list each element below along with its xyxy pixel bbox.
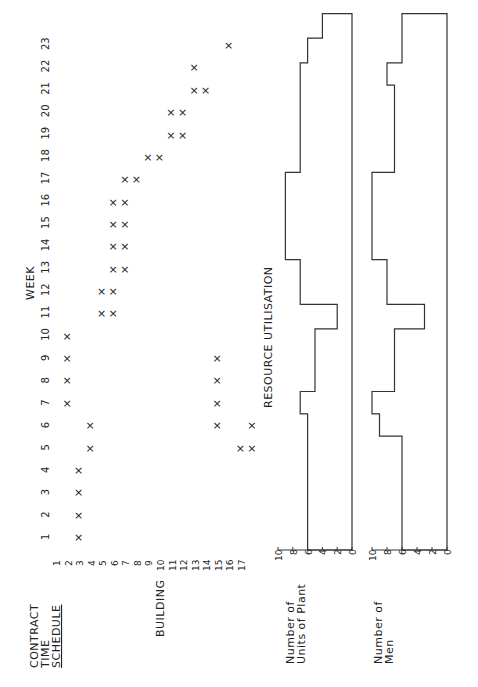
schedule-x-mark: × xyxy=(224,39,233,52)
building-tick-label: 1 xyxy=(52,560,62,566)
building-tick-label: 15 xyxy=(214,560,224,571)
week-tick-label: 9 xyxy=(40,355,51,361)
schedule-x-mark: × xyxy=(74,509,83,522)
schedule-x-mark: × xyxy=(62,352,71,365)
building-tick-label: 10 xyxy=(156,559,166,571)
schedule-x-mark: × xyxy=(109,196,118,209)
building-tick-label: 2 xyxy=(64,560,74,566)
schedule-x-mark: × xyxy=(120,173,129,186)
week-tick-label: 11 xyxy=(40,306,51,319)
schedule-x-mark: × xyxy=(166,129,175,142)
axis-tick-label: 8 xyxy=(383,549,393,555)
building-tick-label: 3 xyxy=(75,560,85,566)
axis-tick-label: 10 xyxy=(274,549,284,561)
schedule-x-mark: × xyxy=(97,307,106,320)
schedule-x-mark: × xyxy=(85,419,94,432)
men-axis-label: Men xyxy=(383,639,396,664)
contract-schedule-figure: CONTRACTTIMESCHEDULEBUILDINGWEEKRESOURCE… xyxy=(0,0,478,687)
schedule-x-mark: × xyxy=(74,486,83,499)
week-tick-label: 2 xyxy=(40,511,51,517)
week-tick-label: 23 xyxy=(40,37,51,50)
schedule-x-mark: × xyxy=(247,442,256,455)
schedule-x-mark: × xyxy=(201,84,210,97)
schedule-x-mark: × xyxy=(74,464,83,477)
building-tick-label: 16 xyxy=(225,559,235,571)
week-tick-label: 1 xyxy=(40,534,51,540)
building-tick-label: 14 xyxy=(202,559,212,571)
axis-tick-label: 10 xyxy=(368,549,378,561)
schedule-x-mark: × xyxy=(62,374,71,387)
schedule-x-mark: × xyxy=(189,84,198,97)
plant-utilisation-chart: 1086420 xyxy=(274,14,358,561)
schedule-x-mark: × xyxy=(109,240,118,253)
week-tick-label: 16 xyxy=(40,194,51,207)
schedule-x-mark: × xyxy=(120,240,129,253)
schedule-x-mark: × xyxy=(74,531,83,544)
axis-tick-label: 4 xyxy=(413,549,423,555)
plant-axis-label: Units of Plant xyxy=(295,583,308,664)
schedule-x-mark: × xyxy=(178,129,187,142)
week-tick-label: 5 xyxy=(40,444,51,450)
week-tick-label: 7 xyxy=(40,399,51,405)
schedule-x-mark: × xyxy=(189,61,198,74)
week-tick-label: 14 xyxy=(40,239,51,252)
schedule-x-mark: × xyxy=(166,106,175,119)
schedule-x-mark: × xyxy=(62,330,71,343)
axis-tick-label: 6 xyxy=(304,549,314,555)
step-outline xyxy=(372,14,447,550)
week-tick-label: 4 xyxy=(40,467,51,473)
schedule-x-mark: × xyxy=(109,307,118,320)
axis-tick-label: 6 xyxy=(398,549,408,555)
building-tick-label: 12 xyxy=(179,560,189,571)
schedule-x-mark: × xyxy=(109,285,118,298)
building-axis: 1234567891011121314151617 xyxy=(52,559,247,571)
schedule-x-mark: × xyxy=(213,397,222,410)
week-tick-label: 20 xyxy=(40,104,51,117)
week-tick-label: 8 xyxy=(40,377,51,383)
axis-tick-label: 0 xyxy=(348,549,358,555)
step-outline xyxy=(285,14,352,550)
schedule-x-mark: × xyxy=(97,285,106,298)
schedule-x-mark: × xyxy=(120,263,129,276)
schedule-x-mark: × xyxy=(62,397,71,410)
men-utilisation-chart: 1086420 xyxy=(368,14,453,561)
building-tick-label: 7 xyxy=(121,560,131,566)
week-axis: 1234567891011121314151617181920212223 xyxy=(40,37,51,540)
building-label: BUILDING xyxy=(154,580,167,637)
schedule-title-line: SCHEDULE xyxy=(50,605,63,669)
week-tick-label: 17 xyxy=(40,172,51,185)
schedule-x-mark: × xyxy=(109,263,118,276)
building-tick-label: 5 xyxy=(98,560,108,566)
building-tick-label: 8 xyxy=(133,560,143,566)
schedule-x-mark: × xyxy=(132,173,141,186)
schedule-x-mark: × xyxy=(155,151,164,164)
axis-tick-label: 4 xyxy=(318,549,328,555)
schedule-x-mark: × xyxy=(213,352,222,365)
resource-utilisation-label: RESOURCE UTILISATION xyxy=(262,266,275,408)
axis-tick-label: 0 xyxy=(443,549,453,555)
schedule-x-mark: × xyxy=(236,442,245,455)
schedule-x-mark: × xyxy=(120,218,129,231)
building-tick-label: 13 xyxy=(191,560,201,571)
week-tick-label: 19 xyxy=(40,127,51,140)
week-tick-label: 3 xyxy=(40,489,51,495)
schedule-x-mark: × xyxy=(143,151,152,164)
schedule-x-mark: × xyxy=(213,419,222,432)
week-label: WEEK xyxy=(24,266,37,300)
building-tick-label: 11 xyxy=(168,560,178,571)
schedule-marks: ××××××××××××××××××××××××××××××××××××××××… xyxy=(62,39,256,544)
axis-tick-label: 2 xyxy=(428,549,438,555)
week-tick-label: 21 xyxy=(40,82,51,95)
schedule-x-mark: × xyxy=(85,442,94,455)
week-tick-label: 22 xyxy=(40,60,51,73)
week-tick-label: 18 xyxy=(40,149,51,162)
week-tick-label: 15 xyxy=(40,216,51,229)
week-tick-label: 10 xyxy=(40,328,51,341)
week-tick-label: 6 xyxy=(40,422,51,428)
schedule-x-mark: × xyxy=(213,374,222,387)
schedule-x-mark: × xyxy=(109,218,118,231)
week-tick-label: 12 xyxy=(40,283,51,296)
axis-tick-label: 2 xyxy=(333,549,343,555)
schedule-x-mark: × xyxy=(120,196,129,209)
schedule-x-mark: × xyxy=(178,106,187,119)
